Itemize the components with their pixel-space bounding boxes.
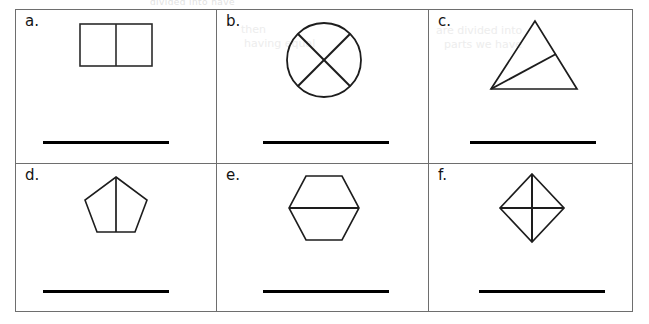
worksheet-cell-c: c. (429, 10, 634, 163)
worksheet-cell-d: d. (16, 164, 216, 313)
worksheet-cell-f: f. (429, 164, 634, 313)
shape-holder-c (429, 16, 634, 108)
shape-holder-d (16, 170, 216, 262)
hexagon-split-into-2-icon (273, 170, 373, 246)
ghost-text: divided into have (150, 0, 235, 7)
shape-holder-f (429, 170, 634, 262)
answer-line-b[interactable] (263, 141, 389, 144)
rectangle-split-into-2-icon (66, 16, 166, 76)
shape-holder-b (217, 16, 428, 108)
worksheet-table: are divided into parts we have then havi… (15, 9, 633, 312)
answer-line-c[interactable] (470, 141, 596, 144)
answer-line-a[interactable] (43, 141, 169, 144)
rhombus-split-into-4-icon (482, 170, 582, 250)
answer-line-e[interactable] (263, 290, 389, 293)
triangle-split-into-2-icon (477, 16, 587, 104)
shape-holder-a (16, 16, 216, 108)
circle-split-into-4-icon (273, 16, 373, 106)
answer-line-d[interactable] (43, 290, 169, 293)
answer-line-f[interactable] (479, 290, 605, 293)
worksheet-cell-b: b. (217, 10, 428, 163)
pentagon-split-into-2-icon (66, 170, 166, 240)
worksheet-cell-a: a. (16, 10, 216, 163)
page-top-bleedthrough: divided into have (0, 0, 649, 9)
shape-holder-e (217, 170, 428, 262)
worksheet-cell-e: e. (217, 164, 428, 313)
